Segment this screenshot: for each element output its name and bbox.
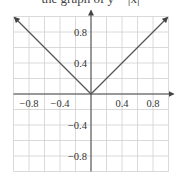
y-tick-label: −0.4 <box>68 120 88 131</box>
absolute-value-graph: −0.8−0.40.40.80.80.4−0.4−0.8 <box>0 0 181 186</box>
y-tick-label: 0.8 <box>74 27 87 38</box>
x-tick-label: 0.4 <box>115 98 129 109</box>
y-tick-label: 0.4 <box>74 58 88 69</box>
x-tick-label: 0.8 <box>146 98 159 109</box>
y-tick-label: −0.8 <box>68 151 87 162</box>
curve-right-branch <box>91 18 168 95</box>
x-tick-label: −0.8 <box>19 98 38 109</box>
x-tick-label: −0.4 <box>50 98 70 109</box>
